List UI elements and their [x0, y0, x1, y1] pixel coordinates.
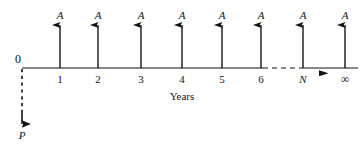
continuation-arrow-icon: [319, 70, 329, 76]
tick-label-2: 2: [95, 74, 101, 85]
tick-label-infinity: ∞: [341, 73, 350, 85]
origin-label: 0: [15, 53, 21, 65]
cash-flow-label-1: A: [57, 10, 64, 21]
tick-label-3: 3: [138, 74, 144, 85]
present-value-label: P: [19, 130, 26, 141]
cash-flow-label-3: A: [138, 10, 145, 21]
tick-label-1: 1: [57, 74, 63, 85]
axis-label-years: Years: [170, 91, 195, 102]
tick-label-5: 5: [219, 74, 225, 85]
cash-flow-label-6: A: [258, 10, 265, 21]
tick-label-6: 6: [258, 74, 264, 85]
cash-flow-label-inf: A: [342, 10, 349, 21]
diagram-canvas: [0, 0, 364, 144]
cash-flow-label-4: A: [179, 10, 186, 21]
cash-flow-label-5: A: [219, 10, 226, 21]
cash-flow-label-2: A: [95, 10, 102, 21]
tick-label-4: 4: [179, 74, 185, 85]
cash-flow-arrows: [60, 25, 345, 68]
cash-flow-label-n: A: [300, 10, 307, 21]
cash-flow-diagram: A A A A A A A A 0 1 2 3 4 5 6 N ∞ Years …: [0, 0, 364, 144]
tick-label-n: N: [299, 74, 306, 85]
